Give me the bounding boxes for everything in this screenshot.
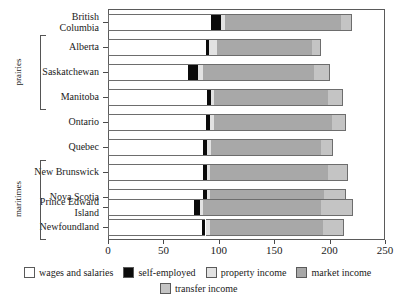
bar-segment-wages-and-salaries [108, 14, 211, 31]
bar-segment-self-employed [188, 64, 198, 81]
legend-swatch-icon [296, 267, 307, 278]
bar-segment-wages-and-salaries [108, 114, 206, 131]
bar-segment-transfer-income [314, 64, 330, 81]
group-label-maritimes: maritimes [13, 177, 23, 221]
bar-segment-transfer-income [321, 199, 353, 216]
x-axis-tick-label: 0 [88, 244, 128, 256]
category-label-alberta: Alberta [69, 42, 99, 53]
bar-segment-wages-and-salaries [108, 164, 203, 181]
bar-segment-wages-and-salaries [108, 64, 188, 81]
legend-item-market-income[interactable]: market income [296, 267, 371, 278]
stacked-bar-chart: British ColumbiaAlbertaSaskatchewanManit… [0, 0, 397, 299]
group-bracket-maritimes [40, 160, 46, 240]
bar-segment-market-income [203, 199, 320, 216]
bar-segment-transfer-income [328, 164, 348, 181]
bar-segment-market-income [210, 219, 323, 236]
legend-label: market income [311, 267, 371, 278]
bar-segment-transfer-income [321, 139, 333, 156]
bar-segment-transfer-income [323, 219, 344, 236]
x-axis-tick-label: 50 [143, 244, 183, 256]
legend-swatch-icon [206, 267, 217, 278]
category-label-british-columbia: British Columbia [60, 12, 99, 33]
bar-segment-market-income [217, 39, 312, 56]
category-tick [103, 197, 108, 198]
legend-secondary-row: transfer income [160, 283, 237, 294]
bar-segment-transfer-income [312, 39, 321, 56]
category-tick [103, 47, 108, 48]
category-label-newfoundland: Newfoundland [40, 222, 99, 233]
category-tick [103, 207, 108, 208]
bar-segment-wages-and-salaries [108, 39, 206, 56]
legend-label: wages and salaries [39, 267, 113, 278]
legend-label: transfer income [175, 283, 237, 294]
category-tick [103, 122, 108, 123]
legend-item-wages-and-salaries[interactable]: wages and salaries [24, 267, 113, 278]
group-bracket-prairies [40, 35, 46, 110]
legend-swatch-icon [160, 283, 171, 294]
category-label-ontario: Ontario [68, 117, 99, 128]
category-label-prince-edward-island: Prince Edward Island [40, 197, 99, 218]
x-axis-tick-label: 150 [254, 244, 294, 256]
bar-segment-market-income [203, 64, 314, 81]
bar-segment-wages-and-salaries [108, 199, 194, 216]
legend-swatch-icon [24, 267, 35, 278]
legend-label: property income [221, 267, 287, 278]
legend-item-property-income[interactable]: property income [206, 267, 287, 278]
category-label-manitoba: Manitoba [61, 92, 99, 103]
category-tick [103, 172, 108, 173]
category-tick [103, 227, 108, 228]
bar-segment-transfer-income [332, 114, 346, 131]
bar-segment-wages-and-salaries [108, 219, 202, 236]
legend-swatch-icon [123, 267, 134, 278]
bar-segment-market-income [225, 14, 340, 31]
x-axis-tick-label: 250 [365, 244, 397, 256]
bar-segment-market-income [210, 164, 329, 181]
bar-segment-property-income [209, 39, 217, 56]
x-axis-tick-label: 100 [199, 244, 239, 256]
group-label-prairies: prairies [13, 50, 23, 94]
bar-segment-transfer-income [328, 89, 342, 106]
bar-segment-transfer-income [341, 14, 352, 31]
category-tick [103, 97, 108, 98]
x-axis-tick-label: 200 [310, 244, 350, 256]
category-tick [103, 22, 108, 23]
bar-segment-wages-and-salaries [108, 89, 207, 106]
bar-segment-market-income [214, 114, 331, 131]
legend-item-self-employed[interactable]: self-employed [123, 267, 195, 278]
legend-primary-row: wages and salariesself-employedproperty … [24, 267, 381, 278]
legend-label: self-employed [138, 267, 195, 278]
legend-item-transfer-income[interactable]: transfer income [160, 283, 237, 294]
bar-segment-self-employed [211, 14, 221, 31]
bar-segment-wages-and-salaries [108, 139, 203, 156]
category-tick [103, 147, 108, 148]
category-tick [103, 72, 108, 73]
category-label-saskatchewan: Saskatchewan [42, 67, 99, 78]
category-label-quebec: Quebec [68, 142, 99, 153]
bar-segment-market-income [211, 139, 321, 156]
bar-segment-market-income [214, 89, 328, 106]
